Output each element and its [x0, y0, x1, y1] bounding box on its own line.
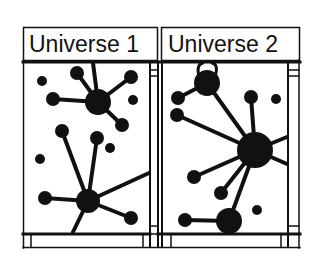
universes-diagram: Universe 1 Universe 2 [0, 0, 312, 258]
leaf-node [72, 68, 82, 78]
network-universe-1 [35, 63, 149, 232]
isolated-node [271, 94, 281, 104]
leaf-node [189, 172, 199, 182]
leaf-node [48, 94, 58, 104]
isolated-node [37, 76, 47, 86]
panel-title-universe-2: Universe 2 [168, 33, 278, 56]
isolated-node [128, 95, 138, 105]
leaf-node [40, 193, 50, 203]
leaf-node [126, 72, 136, 82]
leaf-node [172, 110, 182, 120]
leaf-node [57, 126, 67, 136]
leaf-node [246, 92, 256, 102]
leaf-node [216, 188, 226, 198]
leaf-node [173, 93, 183, 103]
isolated-node [252, 205, 262, 215]
panel-divider [150, 62, 158, 247]
hub-node [78, 191, 98, 211]
isolated-node [35, 154, 45, 164]
network-universe-2 [172, 63, 287, 232]
leaf-node [180, 215, 190, 225]
hub-node [196, 72, 218, 94]
hub-node [239, 134, 271, 166]
isolated-node [105, 143, 115, 153]
leaf-node [126, 213, 136, 223]
hub-node [87, 91, 109, 113]
hub-node [218, 210, 240, 232]
leaf-node [92, 133, 102, 143]
panel-title-universe-1: Universe 1 [29, 33, 139, 56]
leaf-node [117, 120, 127, 130]
